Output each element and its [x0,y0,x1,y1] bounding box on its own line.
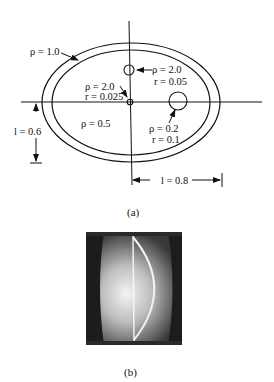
figure-a-diagram: ρ = 1.0 ρ = 2.0 r = 0.05 ρ = 2.0 r = 0.0… [14,21,262,219]
vertical-axis [129,21,132,185]
caption-a: (a) [127,206,140,219]
caption-b: (b) [124,366,137,379]
interior-label: ρ = 0.5 [81,118,111,129]
top-circle-rho: ρ = 2.0 [152,64,182,75]
top-circle-radius: r = 0.05 [154,76,187,87]
center-circle-radius: r = 0.025 [85,91,123,102]
right-circle [169,92,187,110]
horizontal-dimension-label: l = 0.8 [161,175,188,186]
right-circle-rho: ρ = 0.2 [149,123,179,134]
top-circle [124,65,134,75]
outer-ellipse-label: ρ = 1.0 [30,46,60,57]
figure-b-image: (b) [86,232,182,379]
right-circle-radius: r = 0.1 [152,134,180,145]
vertical-dimension-label: l = 0.6 [14,126,41,137]
figure: ρ = 1.0 ρ = 2.0 r = 0.05 ρ = 2.0 r = 0.0… [0,0,274,382]
